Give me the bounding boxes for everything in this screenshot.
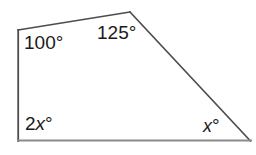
angle-label-bottom-right: x° [203,116,220,135]
variable-text: x [36,113,46,134]
variable-text: x [203,116,212,136]
coefficient-text: 2 [25,113,36,134]
angle-label-top: 125° [97,23,136,42]
degree-symbol: ° [212,115,220,136]
angle-label-bottom-left: 2x° [25,114,53,133]
diagram-canvas: 100° 125° 2x° x° [0,0,256,155]
degree-symbol: ° [45,113,53,134]
angle-label-top-left: 100° [24,33,63,52]
